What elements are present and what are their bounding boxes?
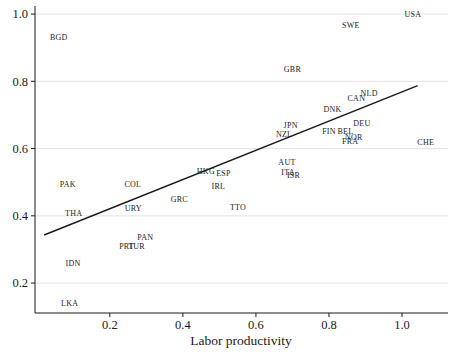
y-tick-label: 0.2 [12, 276, 28, 290]
fit-line-group [44, 86, 418, 235]
x-tick-label: 1.0 [394, 318, 410, 332]
data-point-label-gbr: GBR [284, 65, 302, 74]
axes-group [35, 6, 448, 313]
y-tick-label: 0.6 [12, 142, 28, 156]
scatter-plot-figure: 0.20.40.60.81.00.20.40.60.81.0 USASWEBGD… [0, 0, 455, 352]
data-point-label-grc: GRC [171, 195, 188, 204]
data-point-label-deu: DEU [353, 119, 370, 128]
data-point-label-lka: LKA [61, 299, 78, 308]
data-point-label-swe: SWE [342, 21, 360, 30]
data-point-label-usa: USA [405, 10, 422, 19]
data-point-label-can: CAN [348, 94, 366, 103]
data-point-label-bgd: BGD [50, 33, 68, 42]
data-point-label-ury: URY [125, 204, 142, 213]
data-point-label-isr: ISR [287, 171, 301, 180]
data-point-label-nzl: NZL [276, 130, 292, 139]
x-tick-label: 0.2 [102, 318, 118, 332]
x-tick-label: 0.8 [321, 318, 337, 332]
x-axis-title: Labor productivity [190, 333, 292, 348]
data-point-label-idn: IDN [65, 259, 80, 268]
fit-line [44, 86, 418, 235]
data-point-label-hkg: HKG [197, 167, 215, 176]
data-point-label-che: CHE [417, 138, 434, 147]
y-tick-label: 0.4 [12, 209, 28, 223]
x-tick-label: 0.6 [248, 318, 264, 332]
data-point-label-esp: ESP [216, 169, 231, 178]
data-point-label-dnk: DNK [324, 105, 342, 114]
data-point-label-aut: AUT [278, 158, 295, 167]
y-tick-label: 1.0 [12, 7, 28, 21]
data-point-label-irl: IRL [211, 182, 225, 191]
data-point-label-tha: THA [65, 209, 82, 218]
plot-area: 0.20.40.60.81.00.20.40.60.81.0 USASWEBGD… [0, 0, 455, 352]
data-point-label-pak: PAK [60, 180, 76, 189]
data-point-label-jpn: JPN [284, 121, 298, 130]
data-point-label-fra: FRA [342, 137, 358, 146]
x-tick-label: 0.4 [175, 318, 191, 332]
gridlines-group [35, 14, 448, 283]
data-points-group: USASWEBGDGBRNLDCANDNKDEUJPNFINBELNZLNORF… [50, 10, 434, 309]
data-point-label-tto: TTO [230, 203, 246, 212]
data-point-label-tur: TUR [128, 242, 145, 251]
y-tick-label: 0.8 [12, 75, 28, 89]
data-point-label-col: COL [124, 180, 141, 189]
data-point-label-pan: PAN [137, 233, 153, 242]
data-point-label-fin: FIN [322, 127, 336, 136]
